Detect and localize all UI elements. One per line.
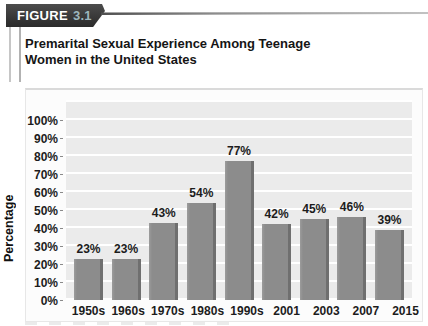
header-rule xyxy=(101,12,428,15)
y-axis-tick-label: 0% xyxy=(41,294,58,308)
figure-number: 3.1 xyxy=(73,8,92,23)
y-axis-tick-mark xyxy=(60,174,63,175)
bar xyxy=(149,223,178,300)
y-axis-tick: 50% xyxy=(26,203,63,218)
y-axis-tick: 80% xyxy=(26,149,63,164)
y-axis-tick-mark xyxy=(60,282,63,283)
figure-label: FIGURE xyxy=(17,8,68,23)
y-axis-tick-mark xyxy=(60,192,63,193)
y-axis-tick-mark xyxy=(60,120,63,121)
bars-row: 23%23%43%54%77%42%45%46%39% xyxy=(66,100,412,300)
x-axis: 1950s1960s1970s1980s1990s200120032007201… xyxy=(66,304,428,320)
x-axis-label-item: 2003 xyxy=(312,304,341,320)
y-axis-tick: 90% xyxy=(26,131,63,146)
bar xyxy=(187,203,216,300)
y-axis-tick: 20% xyxy=(26,257,63,272)
y-axis-title: Percentage xyxy=(2,142,16,262)
bar xyxy=(112,259,141,300)
y-axis-tick-label: 30% xyxy=(34,240,58,254)
bar-value-label: 42% xyxy=(265,207,289,221)
x-axis-label: 1980s xyxy=(191,304,224,320)
y-axis-tick: 0% xyxy=(26,293,63,308)
x-axis-label: 2003 xyxy=(313,304,340,320)
bar-column: 39% xyxy=(375,213,404,300)
bar-column: 42% xyxy=(262,207,291,300)
bar xyxy=(225,161,254,300)
x-axis-label: 2007 xyxy=(353,304,380,320)
bar xyxy=(262,224,291,300)
y-axis-tick-label: 100% xyxy=(27,114,58,128)
bar-value-label: 23% xyxy=(76,242,100,256)
y-axis-tick-mark xyxy=(60,228,63,229)
y-axis-tick-label: 80% xyxy=(34,150,58,164)
x-axis-label: 1970s xyxy=(151,304,184,320)
y-axis-tick-mark xyxy=(60,264,63,265)
y-axis-tick-label: 70% xyxy=(34,168,58,182)
y-axis-tick-label: 60% xyxy=(34,186,58,200)
y-axis-tick-mark xyxy=(60,246,63,247)
figure-title-line1: Premarital Sexual Experience Among Teena… xyxy=(25,36,310,52)
x-axis-label-item: 2015 xyxy=(391,304,420,320)
y-axis-tick: 60% xyxy=(26,185,63,200)
y-axis-tick: 40% xyxy=(26,221,63,236)
figure-number-tab: FIGURE3.1 xyxy=(6,4,105,27)
y-axis-tick: 30% xyxy=(26,239,63,254)
x-axis-label-item: 2001 xyxy=(272,304,301,320)
y-axis-tick-mark xyxy=(60,210,63,211)
y-axis-tick-label: 20% xyxy=(34,258,58,272)
cropped-caption-artifact xyxy=(25,322,240,325)
bar-column: 23% xyxy=(74,242,103,300)
x-axis-label-item: 2007 xyxy=(351,304,380,320)
x-axis-label: 1950s xyxy=(72,304,105,320)
bar xyxy=(74,259,103,300)
y-axis-tick: 100% xyxy=(26,113,63,128)
y-axis-tick-label: 90% xyxy=(34,132,58,146)
bar-value-label: 46% xyxy=(340,200,364,214)
x-axis-label-item: 1990s xyxy=(233,304,262,320)
bar-column: 23% xyxy=(112,242,141,300)
y-axis-tick-mark xyxy=(60,300,63,301)
bar-column: 46% xyxy=(337,200,366,300)
x-axis-label-item: 1960s xyxy=(114,304,143,320)
bar-value-label: 23% xyxy=(114,242,138,256)
y-axis-tick-mark xyxy=(60,138,63,139)
figure-title: Premarital Sexual Experience Among Teena… xyxy=(25,36,310,68)
left-accent-rule xyxy=(9,27,21,82)
y-axis: 0%10%20%30%40%50%60%70%80%90%100% xyxy=(26,100,63,300)
y-axis-tick: 70% xyxy=(26,167,63,182)
bar-column: 45% xyxy=(300,202,329,300)
bar xyxy=(375,230,404,300)
x-axis-label: 1990s xyxy=(230,304,263,320)
bar-value-label: 45% xyxy=(302,202,326,216)
bar-value-label: 39% xyxy=(377,213,401,227)
bar-column: 77% xyxy=(225,144,254,300)
bar xyxy=(337,217,366,300)
x-axis-label: 1960s xyxy=(111,304,144,320)
x-axis-label-item: 1970s xyxy=(153,304,182,320)
x-axis-label: 2015 xyxy=(392,304,419,320)
figure-page: FIGURE3.1 Premarital Sexual Experience A… xyxy=(0,0,428,326)
y-axis-tick-label: 40% xyxy=(34,222,58,236)
y-axis-tick: 10% xyxy=(26,275,63,290)
bar-value-label: 43% xyxy=(152,206,176,220)
bar-value-label: 54% xyxy=(189,186,213,200)
y-axis-tick-label: 50% xyxy=(34,204,58,218)
bar-column: 54% xyxy=(187,186,216,300)
y-axis-tick-mark xyxy=(60,156,63,157)
x-axis-label-item: 1980s xyxy=(193,304,222,320)
y-axis-tick-label: 10% xyxy=(34,276,58,290)
x-axis-label: 2001 xyxy=(273,304,300,320)
bar-value-label: 77% xyxy=(227,144,251,158)
bar xyxy=(300,219,329,300)
bar-chart-panel: 0%10%20%30%40%50%60%70%80%90%100% 23%23%… xyxy=(25,88,423,322)
bar-column: 43% xyxy=(149,206,178,300)
plot-area: 23%23%43%54%77%42%45%46%39% xyxy=(66,100,412,300)
x-axis-label-item: 1950s xyxy=(74,304,103,320)
figure-title-line2: Women in the United States xyxy=(25,52,310,68)
